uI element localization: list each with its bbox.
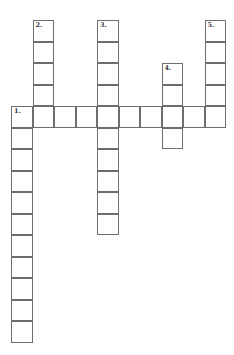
crossword-cell[interactable] <box>11 278 33 300</box>
crossword-cell[interactable]: 5. <box>205 20 227 42</box>
crossword-cell[interactable] <box>162 106 184 128</box>
crossword-grid: 1.2.3.4.5. <box>0 0 234 355</box>
crossword-cell[interactable] <box>11 214 33 236</box>
crossword-cell[interactable] <box>205 106 227 128</box>
crossword-cell[interactable] <box>97 149 119 171</box>
crossword-cell[interactable] <box>11 321 33 343</box>
crossword-cell[interactable] <box>162 85 184 107</box>
crossword-cell[interactable]: 1. <box>11 106 33 128</box>
crossword-cell[interactable]: 4. <box>162 63 184 85</box>
crossword-cell[interactable] <box>183 106 205 128</box>
crossword-cell[interactable] <box>33 106 55 128</box>
crossword-cell[interactable] <box>11 257 33 279</box>
crossword-cell[interactable] <box>33 42 55 64</box>
clue-number: 1. <box>14 108 21 115</box>
clue-number: 3. <box>100 22 107 29</box>
crossword-cell[interactable] <box>76 106 98 128</box>
crossword-cell[interactable] <box>162 128 184 150</box>
crossword-cell[interactable] <box>97 42 119 64</box>
crossword-cell[interactable] <box>11 149 33 171</box>
crossword-cell[interactable] <box>97 171 119 193</box>
crossword-cell[interactable]: 3. <box>97 20 119 42</box>
crossword-cell[interactable] <box>97 192 119 214</box>
crossword-cell[interactable] <box>54 106 76 128</box>
crossword-cell[interactable] <box>97 63 119 85</box>
crossword-cell[interactable] <box>11 171 33 193</box>
crossword-cell[interactable] <box>140 106 162 128</box>
crossword-cell[interactable] <box>205 42 227 64</box>
crossword-cell[interactable] <box>33 63 55 85</box>
crossword-cell[interactable] <box>11 192 33 214</box>
clue-number: 5. <box>208 22 215 29</box>
crossword-cell[interactable] <box>97 128 119 150</box>
crossword-cell[interactable] <box>205 63 227 85</box>
crossword-cell[interactable] <box>205 85 227 107</box>
crossword-cell[interactable] <box>97 214 119 236</box>
crossword-cell[interactable] <box>119 106 141 128</box>
crossword-cell[interactable] <box>11 300 33 322</box>
crossword-cell[interactable] <box>11 128 33 150</box>
clue-number: 4. <box>165 65 172 72</box>
crossword-cell[interactable] <box>33 85 55 107</box>
clue-number: 2. <box>36 22 43 29</box>
crossword-cell[interactable] <box>11 235 33 257</box>
crossword-cell[interactable]: 2. <box>33 20 55 42</box>
crossword-cell[interactable] <box>97 106 119 128</box>
crossword-cell[interactable] <box>97 85 119 107</box>
